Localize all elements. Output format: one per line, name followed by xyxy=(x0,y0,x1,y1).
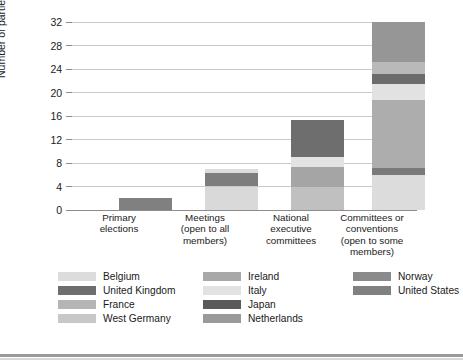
legend-label: France xyxy=(103,299,135,310)
y-tick-mark xyxy=(66,210,72,211)
x-category-label-line: Committees or xyxy=(320,212,424,223)
chart-figure: 048121620242832 Number of parties Primar… xyxy=(0,0,463,362)
bar-segment[interactable] xyxy=(372,22,425,62)
bar-segment[interactable] xyxy=(372,62,425,74)
x-category-label-line: conventions xyxy=(320,223,424,234)
legend-label: United States xyxy=(398,285,459,296)
legend-swatch-icon xyxy=(203,286,241,295)
legend-column: IrelandItalyJapanNetherlands xyxy=(203,270,303,326)
legend-swatch-icon xyxy=(353,286,391,295)
legend-label: Belgium xyxy=(103,271,140,282)
bar[interactable] xyxy=(291,120,344,210)
legend-item[interactable]: Ireland xyxy=(203,270,303,284)
gridline xyxy=(72,45,417,46)
bar-segment[interactable] xyxy=(205,173,258,187)
y-tick-label: 8 xyxy=(2,158,62,168)
gridline xyxy=(72,22,417,23)
legend-item[interactable]: United Kingdom xyxy=(58,284,176,298)
chart-legend: BelgiumUnited KingdomFranceWest GermanyI… xyxy=(58,270,428,326)
gridline xyxy=(72,69,417,70)
gridline xyxy=(72,116,417,117)
bar[interactable] xyxy=(372,22,425,210)
y-tick-label: 20 xyxy=(2,88,62,98)
y-tick-mark xyxy=(66,163,72,164)
y-tick-label: 32 xyxy=(2,17,62,27)
y-tick-label: 4 xyxy=(2,182,62,192)
bar-segment[interactable] xyxy=(372,100,425,168)
bar[interactable] xyxy=(205,169,258,210)
gridline xyxy=(72,163,417,164)
bar-segment[interactable] xyxy=(372,175,425,210)
legend-label: Japan xyxy=(248,299,276,310)
bar-segment[interactable] xyxy=(291,167,344,186)
y-tick-mark xyxy=(66,92,72,93)
legend-item[interactable]: Netherlands xyxy=(203,312,303,326)
legend-label: United Kingdom xyxy=(103,285,176,296)
bar[interactable] xyxy=(119,198,172,210)
bottom-rule xyxy=(0,354,463,357)
legend-item[interactable]: Belgium xyxy=(58,270,176,284)
legend-item[interactable]: France xyxy=(58,298,176,312)
legend-swatch-icon xyxy=(58,286,96,295)
bar-segment[interactable] xyxy=(372,168,425,175)
gridline xyxy=(72,92,417,93)
bar-segment[interactable] xyxy=(372,74,425,84)
y-tick-mark xyxy=(66,22,72,23)
legend-label: Italy xyxy=(248,285,267,296)
legend-swatch-icon xyxy=(58,272,96,281)
y-tick-mark xyxy=(66,186,72,187)
legend-label: Norway xyxy=(398,271,433,282)
bar-segment[interactable] xyxy=(119,198,172,210)
plot-area xyxy=(72,22,417,210)
legend-label: West Germany xyxy=(103,313,171,324)
bar-segment[interactable] xyxy=(291,120,344,157)
x-axis-category-labels: PrimaryelectionsMeetings(open to allmemb… xyxy=(72,212,417,268)
bar-segment[interactable] xyxy=(291,157,344,167)
y-tick-label: 24 xyxy=(2,64,62,74)
legend-swatch-icon xyxy=(353,272,391,281)
x-category-label: Committees orconventions(open to somemem… xyxy=(320,212,424,258)
gridline xyxy=(72,139,417,140)
legend-swatch-icon xyxy=(58,314,96,323)
legend-item[interactable]: West Germany xyxy=(58,312,176,326)
legend-column: BelgiumUnited KingdomFranceWest Germany xyxy=(58,270,176,326)
y-tick-mark xyxy=(66,45,72,46)
legend-label: Ireland xyxy=(248,271,279,282)
legend-swatch-icon xyxy=(203,314,241,323)
legend-item[interactable]: United States xyxy=(353,284,459,298)
bar-segment[interactable] xyxy=(291,187,344,211)
legend-label: Netherlands xyxy=(248,313,303,324)
y-tick-label: 16 xyxy=(2,111,62,121)
y-axis-title: Number of parties xyxy=(0,0,7,78)
y-tick-label: 28 xyxy=(2,41,62,51)
bar-segment[interactable] xyxy=(205,169,258,173)
legend-item[interactable]: Japan xyxy=(203,298,303,312)
bottom-rule-secondary xyxy=(0,358,463,360)
bar-segment[interactable] xyxy=(205,187,258,211)
y-tick-mark xyxy=(66,139,72,140)
legend-item[interactable]: Italy xyxy=(203,284,303,298)
y-tick-label: 0 xyxy=(2,205,62,215)
x-category-label-line: (open to some xyxy=(320,235,424,246)
x-category-label-line: members) xyxy=(320,246,424,257)
legend-column: NorwayUnited States xyxy=(353,270,459,298)
legend-item[interactable]: Norway xyxy=(353,270,459,284)
bar-segment[interactable] xyxy=(372,84,425,100)
y-tick-label: 12 xyxy=(2,135,62,145)
legend-swatch-icon xyxy=(203,272,241,281)
legend-swatch-icon xyxy=(58,300,96,309)
legend-swatch-icon xyxy=(203,300,241,309)
y-tick-mark xyxy=(66,69,72,70)
y-tick-mark xyxy=(66,116,72,117)
